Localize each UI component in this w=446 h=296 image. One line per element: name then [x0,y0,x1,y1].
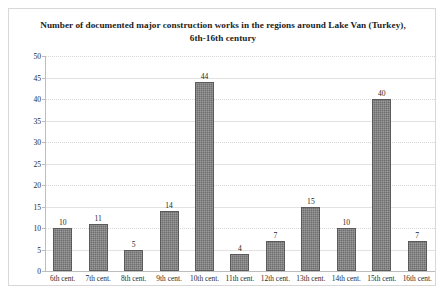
x-axis-tick-labels: 6th cent.7th cent.8th cent.9th cent.10th… [45,274,435,283]
bar[interactable] [301,207,320,272]
bar-slot: 4 [222,56,257,271]
x-axis-tick-label: 16th cent. [400,274,435,283]
bar[interactable] [124,250,143,272]
bar-slot: 44 [187,56,222,271]
bar[interactable] [337,228,356,271]
chart-title: Number of documented major construction … [35,19,411,45]
bar-value-label: 5 [132,240,136,249]
chart-title-line-1: Number of documented major construction … [40,20,366,30]
y-axis-tick-label: 35 [33,116,41,125]
bar-value-label: 44 [201,72,209,81]
y-axis-tick-label: 0 [37,267,41,276]
bar[interactable] [408,241,427,271]
x-axis-tick-label: 7th cent. [80,274,115,283]
x-axis-tick-label: 6th cent. [45,274,80,283]
y-axis-tick-label: 25 [33,159,41,168]
chart-frame: Number of documented major construction … [8,8,436,286]
x-axis-line [45,271,435,272]
bar-slot: 7 [258,56,293,271]
bar-series: 101151444471510407 [45,56,435,271]
bar-value-label: 40 [378,89,386,98]
x-axis-tick-label: 8th cent. [116,274,151,283]
x-axis-tick-label: 11th cent. [222,274,257,283]
y-axis-tick-label: 40 [33,95,41,104]
bar-slot: 15 [293,56,328,271]
y-axis-tick-label: 5 [37,245,41,254]
x-axis-tick-label: 12th cent. [258,274,293,283]
bar[interactable] [266,241,285,271]
y-axis-tick-label: 10 [33,224,41,233]
x-axis-tick-label: 10th cent. [187,274,222,283]
bar[interactable] [372,99,391,271]
bar-value-label: 11 [95,214,102,223]
bar-value-label: 10 [343,218,351,227]
bar-value-label: 7 [274,231,278,240]
bar-slot: 7 [400,56,435,271]
bar[interactable] [160,211,179,271]
bar-slot: 40 [364,56,399,271]
y-axis-tick-label: 15 [33,202,41,211]
y-axis-tick-label: 45 [33,73,41,82]
y-axis-tick-label: 20 [33,181,41,190]
bar-slot: 14 [151,56,186,271]
y-axis-tick-label: 50 [33,52,41,61]
bar-slot: 10 [329,56,364,271]
x-axis-tick-label: 13th cent. [293,274,328,283]
bar-value-label: 14 [165,201,173,210]
bar-slot: 10 [45,56,80,271]
bar-value-label: 15 [307,197,315,206]
bar-value-label: 4 [238,244,242,253]
y-axis-tick-label: 30 [33,138,41,147]
bar-value-label: 10 [59,218,67,227]
x-axis-tick-label: 15th cent. [364,274,399,283]
y-axis-tick-mark [42,271,45,272]
bar[interactable] [230,254,249,271]
x-axis-tick-label: 9th cent. [151,274,186,283]
bar[interactable] [195,82,214,271]
bar-slot: 5 [116,56,151,271]
x-axis-tick-label: 14th cent. [329,274,364,283]
bar[interactable] [89,224,108,271]
bar-value-label: 7 [415,231,419,240]
bar[interactable] [53,228,72,271]
bar-slot: 11 [80,56,115,271]
